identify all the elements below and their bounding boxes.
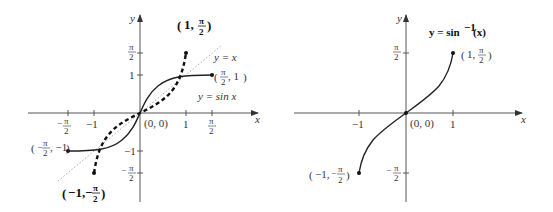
svg-text:π: π	[209, 116, 214, 126]
left-ytick-neg-pi-half: − π 2	[121, 163, 136, 183]
svg-text:2: 2	[199, 27, 204, 37]
left-xtick-neg-pi-half: − π 2	[57, 116, 71, 136]
right-plot-title: y = sin −1 (x)	[429, 21, 486, 39]
svg-text:(: (	[461, 49, 465, 62]
svg-text:2: 2	[129, 52, 134, 62]
svg-text:π: π	[129, 42, 134, 52]
left-xtick-one: 1	[183, 118, 189, 130]
svg-text:, −1: , −1	[50, 141, 67, 153]
arcsin-bottom-point-label: ( −1, − π 2 )	[62, 183, 105, 204]
left-xtick-neg-one: −1	[86, 118, 98, 130]
arcsin-top-point-label: ( 1, π 2 )	[177, 16, 211, 37]
svg-text:): )	[488, 49, 492, 62]
svg-text:(x): (x)	[473, 26, 486, 39]
svg-text:2: 2	[64, 126, 69, 136]
right-plot: x y y = sin −1 (x) −1 1 π 2 − π 2	[294, 12, 526, 202]
svg-text:2: 2	[394, 52, 399, 62]
svg-text:): )	[243, 71, 247, 84]
svg-text:−: −	[331, 168, 336, 178]
svg-text:π: π	[221, 67, 226, 77]
right-y-axis-label: y	[396, 12, 402, 24]
svg-text:π: π	[64, 116, 69, 126]
right-xtick-one: 1	[450, 118, 456, 130]
right-ytick-pi-half: π 2	[393, 42, 401, 62]
svg-text:(: (	[214, 71, 218, 84]
left-plot: x y − π 2 −1 1 π 2 π	[28, 12, 260, 204]
right-origin-label: (0, 0)	[410, 117, 434, 130]
identity-label: y = x	[213, 51, 237, 63]
svg-text:π: π	[129, 163, 134, 173]
svg-text:2: 2	[93, 194, 98, 204]
sine-label: y = sin x	[197, 90, 236, 102]
sine-left-point-label: ( − π 2 , −1 )	[31, 138, 70, 158]
left-xtick-pi-half: π 2	[208, 116, 216, 136]
right-ytick-neg-pi-half: − π 2	[386, 163, 401, 183]
svg-text:, 1: , 1	[228, 70, 239, 82]
svg-text:): )	[207, 18, 211, 33]
svg-text:): )	[346, 169, 350, 182]
svg-text:y = sin: y = sin	[429, 26, 460, 38]
svg-text:1,: 1,	[467, 48, 476, 60]
svg-text:2: 2	[221, 77, 226, 87]
right-x-axis-label: x	[520, 113, 526, 125]
svg-text:2: 2	[129, 173, 134, 183]
left-ytick-one: 1	[129, 69, 135, 81]
left-x-axis-label: x	[254, 113, 260, 125]
svg-text:−: −	[57, 118, 62, 128]
svg-text:2: 2	[209, 126, 214, 136]
sine-right-point-label: ( π 2 , 1 )	[214, 67, 247, 87]
svg-text:(: (	[177, 18, 181, 33]
svg-text:−: −	[85, 185, 92, 200]
left-origin-label: (0, 0)	[144, 117, 168, 130]
svg-text:2: 2	[43, 148, 48, 158]
svg-text:): )	[66, 142, 70, 155]
svg-text:(: (	[62, 186, 66, 201]
svg-text:(: (	[309, 169, 313, 182]
svg-text:π: π	[199, 16, 204, 26]
right-top-point-label: ( 1, π 2 )	[461, 45, 492, 65]
svg-text:π: π	[93, 183, 98, 193]
svg-text:2: 2	[394, 173, 399, 183]
svg-text:): )	[101, 186, 105, 201]
left-ytick-pi-half: π 2	[128, 42, 136, 62]
svg-text:−: −	[121, 165, 126, 175]
svg-text:π: π	[43, 138, 48, 148]
svg-text:(: (	[31, 142, 35, 155]
svg-text:−1,: −1,	[315, 168, 330, 180]
svg-text:π: π	[394, 42, 399, 52]
svg-text:π: π	[394, 163, 399, 173]
diagram-canvas: x y − π 2 −1 1 π 2 π	[0, 0, 553, 212]
svg-text:−1,: −1,	[68, 185, 85, 200]
svg-text:π: π	[479, 45, 484, 55]
right-xtick-neg-one: −1	[352, 118, 364, 130]
left-y-axis-label: y	[129, 12, 135, 24]
svg-text:π: π	[338, 164, 343, 174]
svg-text:2: 2	[338, 175, 343, 185]
left-ytick-neg-one: −1	[124, 145, 136, 157]
svg-text:−: −	[386, 165, 391, 175]
svg-text:2: 2	[479, 55, 484, 65]
right-bottom-point-label: ( −1, − π 2 )	[309, 164, 350, 185]
svg-text:−: −	[37, 142, 42, 152]
svg-text:1,: 1,	[184, 17, 194, 32]
